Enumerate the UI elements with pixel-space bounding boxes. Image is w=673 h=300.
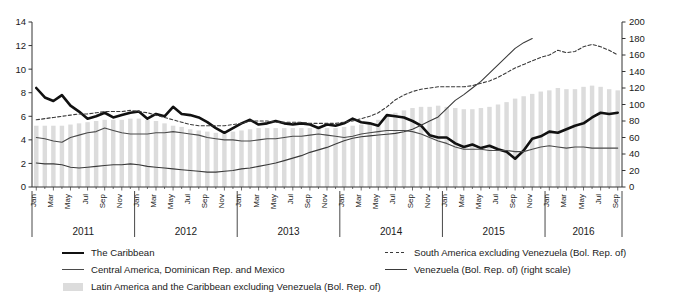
y-axis-right-tick-label: 40 [629,148,640,159]
x-axis-year-label: 2012 [175,226,198,237]
bar [205,132,209,187]
x-axis-month-label: Sep [508,193,517,208]
legend-label-the-caribbean: The Caribbean [91,247,154,259]
bar [316,128,320,187]
bar [60,126,64,187]
bar [248,129,252,187]
bar [43,126,47,187]
x-axis-month-label: Jul [491,194,500,204]
bar [154,121,158,187]
legend-column-right: South America excluding Venezuela (Bol. … [385,245,626,279]
x-axis-month-label: Sep [611,193,620,208]
bar [607,89,611,187]
y-axis-left-tick-label: 2 [21,158,26,169]
bar [197,130,201,187]
legend-label-venezuela: Venezuela (Bol. Rep. of) (right scale) [414,264,571,276]
y-axis-left-tick-label: 12 [15,40,26,51]
y-axis-right-tick-label: 140 [629,66,645,77]
y-axis-left-tick-label: 0 [21,181,26,192]
legend-bar-swatch-icon [62,281,84,293]
y-axis-right-tick-label: 20 [629,165,640,176]
bar [564,89,568,187]
x-axis-month-label: Jul [81,194,90,204]
bar [419,107,423,187]
bar [265,128,269,187]
x-axis-month-label: Jan [132,194,141,207]
y-axis-right-tick-label: 180 [629,33,645,44]
legend-label-central-america: Central America, Dominican Rep. and Mexi… [91,264,285,276]
bar [188,129,192,187]
bar [239,130,243,187]
x-axis-month-label: Mar [354,194,363,208]
bar [539,92,543,187]
bar [521,96,525,187]
bar [299,128,303,187]
legend-label-south-america: South America excluding Venezuela (Bol. … [414,247,626,259]
bar [342,127,346,187]
x-axis-month-label: Jan [542,194,551,207]
bar [325,128,329,187]
bar [385,116,389,187]
x-axis-month-label: Sep [98,193,107,208]
x-axis-month-label: May [474,194,483,209]
bar [273,128,277,187]
x-axis-month-label: Nov [423,194,432,208]
x-axis-month-label: Jul [388,194,397,204]
legend-line-swatch-icon [62,264,84,276]
x-axis-month-label: Nov [320,194,329,208]
x-axis-month-label: Mar [457,194,466,208]
x-axis-month-label: Jan [29,194,38,207]
bar [34,126,38,187]
y-axis-left-tick-label: 10 [15,64,26,75]
x-axis-month-label: Mar [149,194,158,208]
y-axis-right-tick-label: 120 [629,82,645,93]
bar [598,87,602,187]
bar [504,102,508,187]
bar-series-latin-america [34,86,620,187]
bar [513,99,517,187]
x-axis-year-label: 2011 [73,226,95,237]
x-axis-month-label: May [166,194,175,209]
bar [496,105,500,188]
bar [444,107,448,187]
legend-dashed-swatch-icon [385,247,407,259]
x-axis-month-label: May [63,194,72,209]
bar [145,120,149,187]
bar [222,133,226,187]
y-axis-left-tick-label: 8 [21,87,26,98]
x-axis-month-label: Jul [594,194,603,204]
y-axis-right-tick-label: 200 [629,16,645,27]
x-axis-year-label: 2016 [572,226,595,237]
x-axis-year-label: 2015 [483,226,506,237]
y-axis-left-tick-label: 6 [21,111,26,122]
x-axis-month-label: May [269,194,278,209]
x-axis-month-label: Nov [217,194,226,208]
legend-label-latin-america: Latin America and the Caribbean excludin… [91,281,381,293]
y-axis-right-tick-label: 80 [629,115,640,126]
x-axis-month-label: May [371,194,380,209]
chart-figure: 02468101214020406080100120140160180200Ja… [0,0,673,300]
bar [77,123,81,187]
x-axis-month-label: Nov [115,194,124,208]
bar [427,107,431,187]
bar [573,89,577,187]
x-axis-month-label: Mar [559,194,568,208]
y-axis-right-tick-label: 100 [629,99,645,110]
bar [256,128,260,187]
bar [590,86,594,187]
bar [470,109,474,187]
legend-line-swatch-icon [385,264,407,276]
bar [137,119,141,187]
x-axis-month-label: May [577,194,586,209]
bar [68,125,72,187]
bar [376,120,380,187]
x-axis-year-label: 2013 [277,226,300,237]
x-axis-year-label: 2014 [380,226,403,237]
bar [402,110,406,187]
legend-item-venezuela: Venezuela (Bol. Rep. of) (right scale) [385,262,626,277]
legend-item-latin-america-bars: Latin America and the Caribbean excludin… [62,279,381,294]
legend-column-left: The Caribbean Central America, Dominican… [62,245,381,296]
bar [616,90,620,187]
x-axis-month-label: Jan [234,194,243,207]
bar [179,127,183,187]
